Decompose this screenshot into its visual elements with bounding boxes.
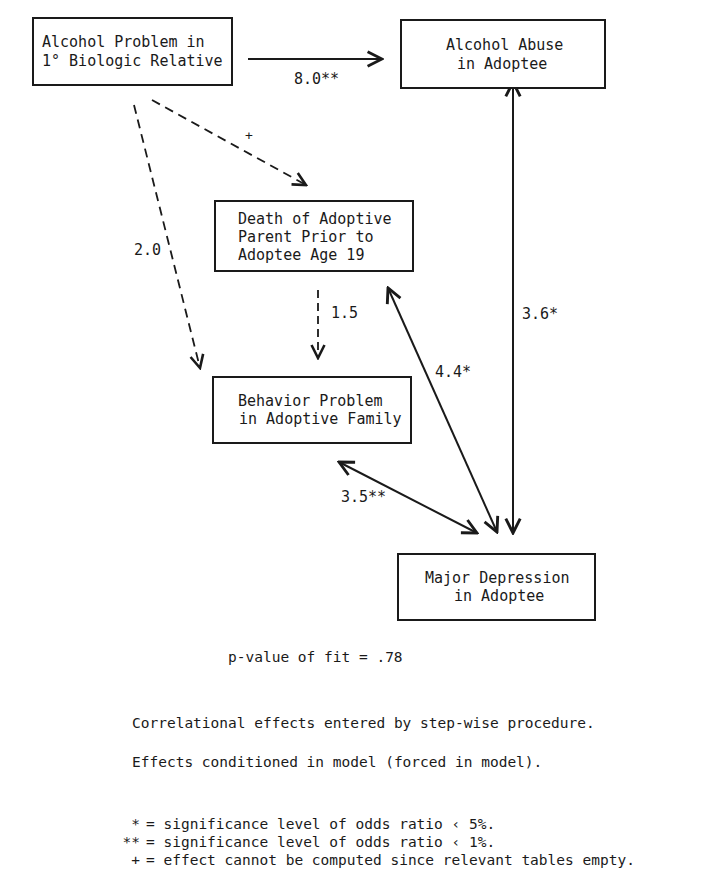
node-label-line1: Alcohol Abuse bbox=[446, 36, 563, 54]
node-label-line1: Death of Adoptive bbox=[238, 210, 392, 228]
note-conditioned: Effects conditioned in model (forced in … bbox=[132, 753, 542, 771]
note-correlational: Correlational effects entered by step-wi… bbox=[132, 714, 595, 732]
edge-label-2-0: 2.0 bbox=[134, 241, 161, 259]
node-major-depression-adoptee: Major Depression in Adoptee bbox=[397, 553, 596, 621]
node-label-line1: Behavior Problem bbox=[238, 392, 383, 410]
fit-p-value: p-value of fit = .78 bbox=[228, 648, 403, 666]
edge-label-plus: + bbox=[245, 127, 253, 145]
legend-item-single-star: * = significance level of odds ratio ‹ 5… bbox=[110, 815, 700, 835]
node-label-line2: in Adoptee bbox=[454, 587, 544, 605]
node-label-line2: 1° Biologic Relative bbox=[42, 52, 223, 70]
node-label-line3: Adoptee Age 19 bbox=[238, 246, 364, 264]
edge-label-8-0: 8.0** bbox=[294, 70, 339, 88]
node-label-line1: Alcohol Problem in bbox=[42, 33, 205, 51]
legend-item-plus: + = effect cannot be computed since rele… bbox=[110, 855, 700, 875]
node-alcohol-abuse-adoptee: Alcohol Abuse in Adoptee bbox=[400, 19, 606, 89]
legend-symbol: + bbox=[118, 851, 140, 869]
node-label-line2: in Adoptee bbox=[457, 55, 547, 73]
legend-symbol: * bbox=[118, 815, 140, 833]
edge-label-1-5: 1.5 bbox=[331, 304, 358, 322]
node-label-line2: in Adoptive Family bbox=[239, 410, 402, 428]
edge-label-3-6: 3.6* bbox=[522, 305, 558, 323]
legend-symbol: ** bbox=[112, 833, 140, 851]
legend-text: = significance level of odds ratio ‹ 1%. bbox=[146, 833, 495, 851]
node-alcohol-problem-relative: Alcohol Problem in 1° Biologic Relative bbox=[32, 17, 233, 86]
legend-text: = effect cannot be computed since releva… bbox=[146, 851, 635, 869]
node-label-line1: Major Depression bbox=[425, 569, 570, 587]
node-label-line2: Parent Prior to bbox=[238, 228, 373, 246]
edge-label-4-4: 4.4* bbox=[435, 363, 471, 381]
legend: * = significance level of odds ratio ‹ 5… bbox=[110, 815, 700, 875]
node-behavior-problem-family: Behavior Problem in Adoptive Family bbox=[212, 376, 412, 444]
edge-relative-to-death bbox=[152, 100, 306, 185]
node-death-adoptive-parent: Death of Adoptive Parent Prior to Adopte… bbox=[214, 200, 414, 272]
edge-label-3-5: 3.5** bbox=[341, 488, 386, 506]
edge-relative-to-behavior bbox=[134, 105, 200, 368]
legend-text: = significance level of odds ratio ‹ 5%. bbox=[146, 815, 495, 833]
